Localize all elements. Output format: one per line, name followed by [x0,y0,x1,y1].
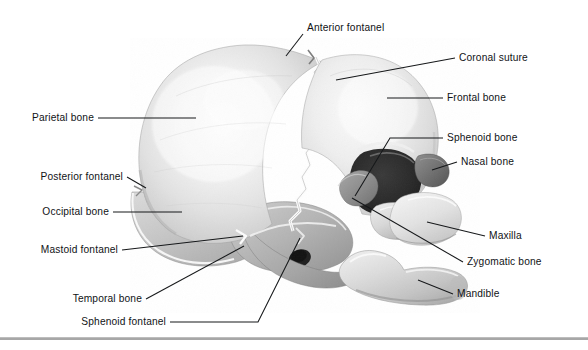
skull-illustration: Anterior fontanel Coronal suture Frontal… [0,0,588,350]
label-sphenoid-fontanel: Sphenoid fontanel [81,316,166,327]
label-frontal-bone: Frontal bone [447,92,506,103]
skull-drawing [130,38,480,313]
label-posterior-fontanel: Posterior fontanel [40,171,123,182]
label-parietal-bone: Parietal bone [32,112,94,123]
label-nasal-bone: Nasal bone [461,156,514,167]
label-mandible: Mandible [457,288,500,299]
label-sphenoid-bone: Sphenoid bone [447,132,518,143]
label-mastoid-fontanel: Mastoid fontanel [41,244,118,255]
label-coronal-suture: Coronal suture [459,52,528,63]
label-zygomatic-bone: Zygomatic bone [467,256,542,267]
bottom-divider [0,337,588,340]
label-maxilla: Maxilla [489,230,522,241]
label-occipital-bone: Occipital bone [42,206,109,217]
label-temporal-bone: Temporal bone [73,293,143,304]
label-anterior-fontanel: Anterior fontanel [307,22,384,33]
anatomy-figure: Anterior fontanel Coronal suture Frontal… [0,0,588,350]
